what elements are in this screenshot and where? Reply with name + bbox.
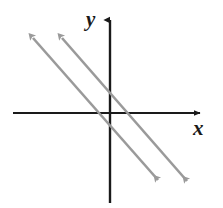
plot-canvas (0, 0, 223, 208)
x-axis-label: x (193, 118, 204, 139)
y-axis-label: y (86, 9, 95, 30)
line-1 (33, 38, 158, 180)
coordinate-plane-figure: y x (0, 0, 223, 208)
line-2 (62, 38, 187, 181)
